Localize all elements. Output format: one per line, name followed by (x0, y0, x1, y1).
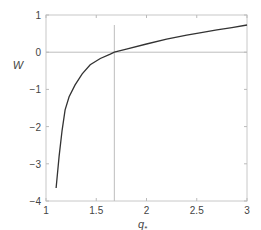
chart: 11.522.5310−1−2−3−4 q*W (0, 0, 261, 230)
x-tick-label: 3 (244, 205, 250, 216)
plot-frame (46, 15, 247, 201)
x-tick-label: 2.5 (190, 205, 204, 216)
x-axis-label: q* (138, 218, 148, 230)
x-axis-label-subscript: * (144, 224, 148, 230)
y-tick-label: −2 (30, 122, 42, 133)
y-tick-label: −3 (30, 159, 42, 170)
y-tick-label: 1 (35, 10, 41, 21)
y-tick-label: −1 (30, 84, 42, 95)
y-axis-label: W (13, 59, 25, 71)
x-tick-label: 2 (144, 205, 150, 216)
y-tick-label: −4 (30, 196, 42, 207)
data-curve (56, 25, 247, 188)
x-tick-label: 1.5 (89, 205, 103, 216)
y-tick-label: 0 (35, 47, 41, 58)
x-tick-label: 1 (43, 205, 49, 216)
